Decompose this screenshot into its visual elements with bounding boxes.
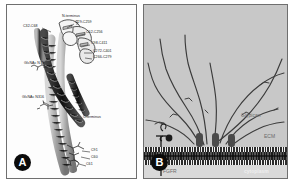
label-c-terminus: C-terminus	[83, 115, 101, 119]
gag-chains	[146, 35, 284, 145]
label-glycan-n316: GlcNAc N316	[22, 95, 44, 99]
panel-a-content: N-terminus C29-C259 C32-C68 C62-C256 C98…	[7, 5, 136, 178]
label-disulfide-c272-c401: C272-C401	[93, 49, 112, 53]
label-cytoplasm: cytoplasm	[244, 168, 269, 174]
label-glycan-n79: GlcNAc N79	[23, 61, 45, 65]
label-ecm: ECM	[264, 133, 275, 139]
label-residue-c60: C60	[91, 155, 98, 159]
label-residue-c61: C61	[86, 162, 93, 166]
panel-b: Glypican ECM FGFR cytoplasm B	[143, 4, 288, 179]
label-glypican: Glypican	[241, 112, 260, 118]
label-disulfide-c62-c256: C62-C256	[86, 30, 103, 34]
panel-b-badge: B	[151, 154, 168, 171]
panel-a: N-terminus C29-C259 C32-C68 C62-C256 C98…	[6, 4, 137, 179]
protein-structure-graphic	[7, 5, 137, 179]
panel-a-badge: A	[14, 154, 31, 171]
label-disulfide-c266-c279: C266-C279	[93, 55, 112, 59]
label-disulfide-c29-c259: C29-C259	[75, 20, 92, 24]
label-residue-c91: C91	[91, 148, 98, 152]
label-disulfide-c32-c68: C32-C68	[23, 24, 38, 28]
label-disulfide-c98-c411: C98-C411	[91, 41, 107, 45]
figure-container: N-terminus C29-C259 C32-C68 C62-C256 C98…	[0, 0, 292, 183]
label-n-terminus: N-terminus	[62, 14, 80, 18]
